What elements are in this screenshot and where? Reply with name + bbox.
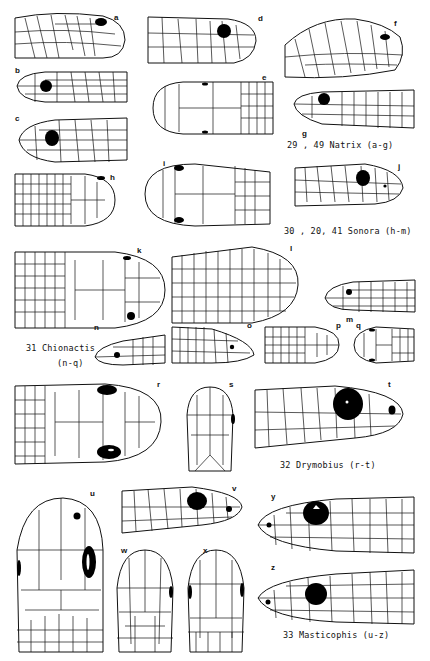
- figure-r-drymobius-dorsal-head: [15, 382, 163, 466]
- label-d: d: [258, 15, 263, 23]
- label-c: c: [15, 115, 19, 123]
- figure-z-masticophis-lateral-head: [256, 568, 414, 626]
- label-b: b: [15, 67, 20, 75]
- figure-l-sonora-dorsal-head: [172, 245, 300, 325]
- figure-m-sonora-lateral-head: [323, 278, 415, 314]
- label-n: n: [94, 324, 99, 332]
- label-a: a: [114, 14, 118, 22]
- label-s: s: [229, 381, 233, 389]
- label-o: o: [247, 322, 252, 330]
- label-h: h: [110, 174, 115, 182]
- label-w: w: [121, 547, 127, 555]
- label-v: v: [232, 485, 236, 493]
- label-y: y: [271, 493, 275, 501]
- figure-q-chionactis-dorsal-head: [352, 325, 414, 365]
- figure-a-natrix-lateral-head: [15, 10, 127, 62]
- figure-k-sonora-dorsal-head: [15, 250, 165, 330]
- label-j: j: [398, 163, 400, 171]
- label-r: r: [157, 381, 160, 389]
- figure-d-natrix-lateral-head: [148, 15, 260, 67]
- figure-w-masticophis-ventral-head: [115, 548, 175, 652]
- figure-x-masticophis-ventral-head: [186, 548, 246, 652]
- label-g: g: [302, 130, 307, 138]
- figure-s-drymobius-ventral-head: [185, 385, 235, 471]
- figure-v-masticophis-lateral-head: [122, 485, 244, 535]
- figure-j-sonora-lateral-head: [295, 162, 405, 208]
- figure-e-natrix-dorsal-head: [153, 78, 273, 136]
- label-f: f: [394, 20, 397, 28]
- caption-chionactis-line2: (n-q): [57, 358, 84, 368]
- figure-p-chionactis-dorsal-head: [265, 325, 340, 365]
- figure-o-chionactis-lateral-head: [172, 325, 256, 365]
- label-i: i: [163, 160, 165, 168]
- figure-n-chionactis-lateral-head: [93, 333, 165, 367]
- figure-f-natrix-lateral-head: [285, 15, 410, 80]
- caption-chionactis-line1: 31 Chionactis: [26, 343, 95, 353]
- caption-natrix: 29 , 49 Natrix (a-g): [287, 140, 393, 150]
- label-k: k: [137, 247, 141, 255]
- figure-c-natrix-lateral-head: [15, 116, 127, 164]
- label-t: t: [388, 381, 391, 389]
- label-p: p: [336, 322, 341, 330]
- label-q: q: [356, 322, 361, 330]
- label-l: l: [290, 245, 292, 253]
- figure-t-drymobius-lateral-head: [255, 382, 405, 450]
- label-e: e: [262, 74, 266, 82]
- figure-h-sonora-dorsal-head: [15, 172, 115, 228]
- figure-y-masticophis-lateral-head: [256, 495, 414, 555]
- caption-sonora: 30 , 20, 41 Sonora (h-m): [284, 226, 412, 236]
- label-m: m: [346, 316, 353, 324]
- figure-u-masticophis-dorsal-head: [15, 490, 105, 652]
- caption-drymobius: 32 Drymobius (r-t): [280, 460, 376, 470]
- figure-i-sonora-dorsal-head: [145, 162, 270, 228]
- label-x: x: [203, 547, 207, 555]
- figure-g-natrix-lateral-head: [292, 88, 414, 130]
- label-z: z: [271, 564, 275, 572]
- caption-masticophis: 33 Masticophis (u-z): [283, 630, 389, 640]
- label-u: u: [90, 490, 95, 498]
- figure-b-natrix-lateral-head: [15, 68, 127, 106]
